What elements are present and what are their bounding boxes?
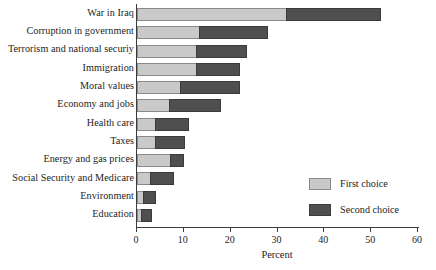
x-axis-tick-label: 50: [355, 234, 385, 245]
bar-segment-first-choice: [137, 136, 156, 149]
bar-segment-second-choice: [196, 63, 240, 76]
x-axis-tick: [136, 228, 137, 232]
x-axis-tick-label: 0: [121, 234, 151, 245]
bar-segment-second-choice: [150, 172, 174, 185]
bar-segment-second-choice: [155, 136, 186, 149]
bar-segment-second-choice: [170, 154, 184, 167]
bar-segment-second-choice: [180, 81, 240, 94]
category-label: Moral values: [80, 81, 134, 91]
x-axis-title-text: Percent: [261, 249, 292, 260]
x-axis-tick: [370, 228, 371, 232]
plot-area: [137, 4, 418, 227]
x-axis-tick-label: 30: [262, 234, 292, 245]
x-axis-tick-label: 10: [168, 234, 198, 245]
legend-label: Second choice: [340, 204, 399, 216]
bar-segment-first-choice: [137, 63, 197, 76]
bar-segment-second-choice: [196, 45, 247, 58]
category-label: Education: [92, 209, 134, 219]
x-axis-tick: [417, 228, 418, 232]
bar-segment-first-choice: [137, 154, 171, 167]
category-label: Corruption in government: [26, 26, 134, 36]
bar-segment-first-choice: [137, 26, 200, 39]
category-label: Economy and jobs: [57, 99, 134, 109]
category-label: Immigration: [83, 63, 134, 73]
x-axis-title: Percent: [0, 249, 436, 260]
bar-segment-second-choice: [169, 99, 222, 112]
x-axis-line: [136, 227, 419, 228]
bar-segment-second-choice: [155, 118, 189, 131]
category-label: War in Iraq: [87, 8, 134, 18]
bar-segment-first-choice: [137, 172, 151, 185]
bar-segment-first-choice: [137, 45, 197, 58]
x-axis-tick-label: 60: [402, 234, 432, 245]
x-axis-tick: [230, 228, 231, 232]
bar-segment-second-choice: [286, 8, 381, 21]
bar-segment-first-choice: [137, 118, 156, 131]
bar-segment-first-choice: [137, 8, 287, 21]
legend-label: First choice: [340, 178, 388, 190]
x-axis-tick: [277, 228, 278, 232]
x-axis-tick: [323, 228, 324, 232]
category-label: Social Security and Medicare: [12, 173, 134, 183]
bar-segment-second-choice: [199, 26, 268, 39]
category-label: Health care: [87, 118, 134, 128]
bar-segment-first-choice: [137, 99, 170, 112]
x-axis-tick-label: 20: [215, 234, 245, 245]
bar-segment-first-choice: [137, 81, 181, 94]
y-axis-line: [136, 4, 137, 228]
x-axis-tick: [183, 228, 184, 232]
category-label: Environment: [80, 191, 134, 201]
category-label: Energy and gas prices: [43, 154, 134, 164]
category-label: Taxes: [110, 136, 134, 146]
bar-segment-second-choice: [143, 191, 156, 204]
category-label: Terrorism and national securiy: [8, 44, 134, 54]
x-axis-tick-label: 40: [308, 234, 338, 245]
legend-swatch-icon: [309, 178, 331, 190]
horizontal-stacked-bar-chart: War in Iraq Corruption in government Ter…: [0, 0, 436, 270]
bar-segment-second-choice: [141, 209, 152, 222]
legend-swatch-icon: [309, 204, 331, 216]
